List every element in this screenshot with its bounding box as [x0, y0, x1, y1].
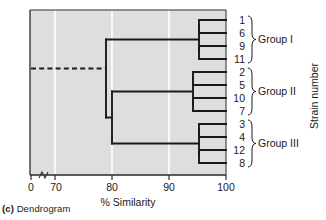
- dendrogram-figure: 0 70 80 90 100 % Similarity 1 6 9 11 2 5…: [0, 0, 326, 220]
- group-labels: Group I Group II Group III: [258, 33, 299, 149]
- x-tick-label-0: 0: [28, 181, 34, 193]
- figure-caption-text: Dendrogram: [14, 203, 71, 214]
- x-axis-ticks: [31, 175, 226, 180]
- bracket-group-I: [248, 16, 256, 63]
- leaf-label-1: 1: [239, 14, 245, 26]
- group-label-II: Group II: [258, 85, 296, 97]
- figure-caption-tag: (c): [2, 203, 14, 214]
- x-tick-label-100: 100: [217, 181, 235, 193]
- leaf-label-12: 12: [233, 144, 245, 156]
- y-axis-label: Strain number: [308, 63, 320, 129]
- x-axis-tick-labels: 0 70 80 90 100: [28, 181, 235, 193]
- leaf-label-9: 9: [239, 40, 245, 52]
- bracket-group-II: [248, 68, 256, 115]
- leaf-label-5: 5: [239, 79, 245, 91]
- leaf-label-3: 3: [239, 118, 245, 130]
- leaf-label-6: 6: [239, 27, 245, 39]
- dendrogram-plot: 0 70 80 90 100 % Similarity 1 6 9 11 2 5…: [0, 0, 326, 220]
- leaf-labels: 1 6 9 11 2 5 10 7 3 4 12 8: [233, 14, 245, 169]
- figure-caption: (c) Dendrogram: [2, 203, 70, 214]
- x-tick-label-80: 80: [106, 181, 118, 193]
- plot-background: [30, 10, 226, 175]
- leaf-label-8: 8: [239, 157, 245, 169]
- leaf-label-10: 10: [233, 92, 245, 104]
- x-axis-label: % Similarity: [101, 196, 157, 208]
- x-tick-label-70: 70: [50, 181, 62, 193]
- leaf-label-11: 11: [234, 53, 245, 65]
- leaf-label-7: 7: [239, 105, 245, 117]
- group-brackets: [248, 16, 256, 167]
- bracket-group-III: [248, 120, 256, 167]
- group-label-III: Group III: [258, 137, 299, 149]
- x-tick-label-90: 90: [163, 181, 175, 193]
- leaf-label-2: 2: [239, 66, 245, 78]
- leaf-label-4: 4: [239, 131, 245, 143]
- group-label-I: Group I: [258, 33, 293, 45]
